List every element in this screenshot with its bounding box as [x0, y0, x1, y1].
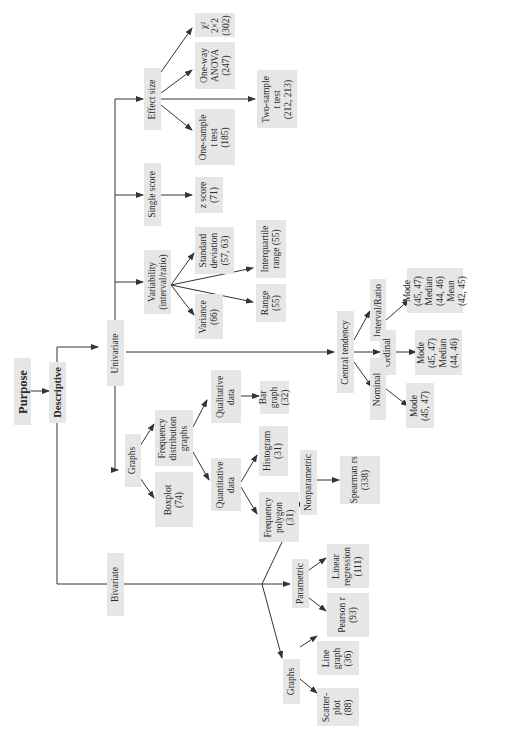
- node-scatterplot: Scatter- plot (88): [317, 688, 359, 726]
- node-univariate: Univariate: [107, 320, 124, 386]
- node-variance: Variance (66): [195, 294, 223, 339]
- node-nonparametric: Nonparametric: [300, 450, 317, 515]
- node-quantitative-data: Quantitative data: [211, 458, 241, 511]
- node-boxplot: Boxplot (74): [155, 472, 193, 527]
- node-nominal-measures: Mode (45, 47): [406, 383, 434, 428]
- node-standard-deviation: Standard deviation (57, 63): [195, 227, 234, 274]
- node-single-score: Single score: [144, 163, 161, 226]
- node-bar-graph: Bar graph (32): [260, 381, 289, 414]
- node-variability: Variability (interval/ratio): [144, 250, 171, 314]
- node-chi-square: χ² 2×2 (302): [195, 13, 235, 37]
- node-histogram: Histogram (31): [259, 426, 288, 476]
- node-effect-size: Effect size: [144, 68, 161, 130]
- decision-tree-diagram: Purpose Descriptive Univariate Bivariate…: [0, 0, 506, 730]
- node-purpose: Purpose: [14, 358, 31, 425]
- node-ordinal-measures: Mode (45, 47) Median (44, 46): [415, 330, 462, 375]
- node-line-graph: Line graph (36): [317, 641, 359, 675]
- node-pearson: Pearson r (93): [327, 593, 369, 637]
- node-frequency-polygon: Frequency polygon (31): [259, 492, 299, 542]
- node-qualitative-data: Qualitative data: [211, 370, 241, 423]
- node-spearman: Spearman rs (338): [340, 456, 380, 504]
- node-one-sample-t: One-sample t test (185): [195, 109, 235, 165]
- node-parametric: Parametric: [292, 559, 309, 608]
- node-central-tendency: Central tendency: [337, 311, 354, 393]
- node-nominal: Nominal: [370, 358, 386, 420]
- node-z-score: z score (71): [195, 177, 223, 213]
- node-range: Range (55): [256, 284, 286, 322]
- node-bivariate: Bivariate: [107, 553, 124, 616]
- node-one-way-anova: One-way ANOVA (247): [195, 42, 235, 89]
- node-frequency-distribution-graphs: Frequency distribution graphs: [155, 410, 193, 466]
- node-interquartile-range: Interquartile range (55): [256, 220, 286, 278]
- node-descriptive: Descriptive: [49, 362, 66, 423]
- node-graphs-bivariate: Graphs: [283, 659, 300, 704]
- node-two-sample-t: Two-sample t test (212, 213): [257, 70, 297, 128]
- node-graphs-univariate: Graphs: [125, 434, 141, 487]
- node-interval-ratio-measures: Mode (45, 47) Median (44, 46) Mean (42, …: [407, 268, 463, 313]
- node-linear-regression: Linear regression (111): [327, 544, 369, 588]
